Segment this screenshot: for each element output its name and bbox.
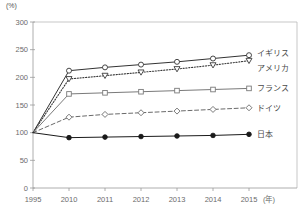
legend-label-3: ドイツ — [257, 104, 281, 113]
data-point-marker — [103, 135, 108, 140]
y-tick-label: 200 — [15, 73, 28, 82]
data-point-marker — [175, 134, 180, 139]
x-axis-unit-label: (年) — [263, 194, 275, 204]
data-point-marker — [247, 53, 252, 58]
data-point-marker — [247, 132, 252, 137]
data-point-marker — [67, 68, 72, 73]
x-axis-ticks: 1995201020112012201320142015(年) — [25, 188, 276, 204]
data-series — [33, 132, 251, 140]
x-tick-label: 2011 — [97, 195, 113, 204]
y-tick-label: 50 — [20, 156, 28, 165]
data-point-marker — [211, 87, 216, 92]
x-tick-label: 2015 — [241, 195, 258, 204]
data-point-marker — [67, 135, 72, 140]
data-point-marker — [66, 114, 72, 120]
line-chart: (%) 050100150200250300 19952010201120122… — [0, 0, 306, 220]
y-tick-label: 0 — [24, 184, 28, 193]
chart-canvas: 050100150200250300 199520102011201220132… — [0, 0, 306, 220]
data-point-marker — [66, 77, 72, 82]
y-tick-label: 100 — [15, 128, 28, 137]
data-series — [33, 58, 252, 132]
x-tick-label: 2014 — [205, 195, 222, 204]
data-point-marker — [138, 110, 144, 116]
data-point-marker — [139, 134, 144, 139]
legend-label-4: 日本 — [257, 129, 273, 139]
y-tick-label: 300 — [15, 18, 28, 27]
data-point-marker — [139, 62, 144, 67]
data-point-marker — [247, 86, 252, 91]
data-point-marker — [67, 92, 72, 97]
data-point-marker — [211, 56, 216, 61]
legend-label-2: フランス — [257, 84, 289, 93]
data-point-marker — [103, 91, 108, 96]
data-point-marker — [174, 108, 180, 114]
data-point-marker — [210, 106, 216, 112]
data-point-marker — [175, 59, 180, 64]
y-tick-label: 150 — [15, 101, 28, 110]
y-axis-ticks: 050100150200250300 — [15, 18, 35, 193]
data-series — [33, 105, 252, 133]
data-point-marker — [246, 105, 252, 111]
legend-label-1: アメリカ — [257, 64, 289, 73]
data-point-marker — [103, 65, 108, 70]
x-tick-label: 2013 — [169, 195, 186, 204]
data-series-group — [33, 53, 252, 140]
legend-label-0: イギリス — [257, 49, 289, 58]
data-point-marker — [102, 111, 108, 117]
data-point-marker — [175, 88, 180, 93]
chart-legend: イギリスアメリカフランスドイツ日本 — [257, 49, 289, 140]
x-tick-label: 1995 — [25, 195, 42, 204]
y-tick-label: 250 — [15, 45, 28, 54]
data-point-marker — [211, 133, 216, 138]
x-tick-label: 2012 — [133, 195, 150, 204]
data-point-marker — [139, 89, 144, 94]
x-tick-label: 2010 — [61, 195, 78, 204]
